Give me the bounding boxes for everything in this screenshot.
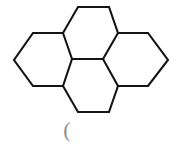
inner-bond-top-right (103, 33, 118, 59)
figure-canvas: ( (0, 0, 190, 150)
chemical-structure-diagram (0, 0, 190, 150)
inner-bond-top-left (63, 33, 72, 59)
inner-bond-bottom-left (63, 59, 72, 86)
open-paren-annotation: ( (58, 116, 76, 144)
inner-bond-bottom-right (103, 59, 118, 86)
